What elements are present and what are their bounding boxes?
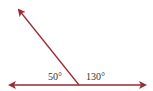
angle-label-right: 130° <box>86 71 105 82</box>
angle-diagram: 50° 130° <box>0 0 153 91</box>
angle-label-left: 50° <box>48 71 62 82</box>
